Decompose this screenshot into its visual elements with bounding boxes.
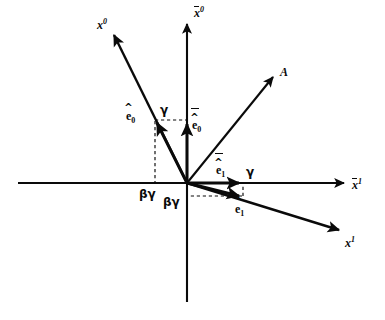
e0-hat-glyph: ^e bbox=[126, 110, 131, 122]
e1-hat-bar-sub: 1 bbox=[221, 170, 225, 179]
hat-accent-icon: ^ bbox=[124, 103, 132, 113]
e0-hat-bar-glyph: ^e bbox=[192, 119, 197, 131]
vector-label-e1-hat: ^e1 bbox=[235, 203, 244, 218]
hat-accent-icon: ^ bbox=[214, 158, 222, 168]
axis-label-x1-prime: x1 bbox=[345, 236, 355, 249]
e0-hat-bar-sub: 0 bbox=[197, 125, 201, 134]
axis-label-x1-prime-sup: 1 bbox=[351, 235, 355, 244]
e1-hat-bar-glyph: ^e bbox=[216, 164, 221, 176]
axis-label-x0-bar-base: x bbox=[194, 7, 200, 19]
vector-label-e1-hat-bar: ^e1 bbox=[216, 164, 225, 179]
axis-label-x0-prime-sup: 0 bbox=[103, 17, 107, 26]
hat-accent-icon: ^ bbox=[190, 113, 198, 123]
axis-label-x0-bar-sup: 0 bbox=[200, 5, 204, 14]
axis-label-x1-bar: x1 bbox=[352, 178, 362, 191]
bar-accent-icon bbox=[215, 153, 223, 154]
axis-label-x0-bar: x0 bbox=[194, 6, 204, 19]
annotation-gamma-vertical: γ bbox=[160, 104, 168, 116]
axis-label-x1-bar-sup: 1 bbox=[358, 177, 362, 186]
annotation-gamma-horizontal: γ bbox=[246, 166, 254, 178]
axis-label-x1-bar-base: x bbox=[352, 179, 358, 191]
hat-accent-icon: ^ bbox=[233, 196, 241, 206]
vector-label-e0-hat-bar: ^e0 bbox=[192, 119, 201, 134]
bar-accent-icon bbox=[191, 108, 199, 109]
annotation-betagamma-left: βγ bbox=[139, 188, 156, 200]
e0-hat-sub: 0 bbox=[131, 116, 135, 125]
annotation-betagamma-right: βγ bbox=[163, 196, 180, 208]
vector-label-A: A bbox=[280, 66, 288, 78]
vector-label-e0-hat: ^e0 bbox=[126, 110, 135, 125]
vector-e1-hat-arrow bbox=[187, 183, 239, 196]
e1-hat-sub: 1 bbox=[240, 209, 244, 218]
diagram-canvas bbox=[0, 0, 385, 320]
e1-hat-glyph: ^e bbox=[235, 203, 240, 215]
axis-label-x0-prime: x0 bbox=[97, 18, 107, 31]
vector-e0-hat-arrow bbox=[157, 123, 187, 183]
lorentz-basis-diagram: x0 x0 x1 x1 ^e0 ^e0 ^e1 ^e1 A γ γ βγ βγ bbox=[0, 0, 385, 320]
